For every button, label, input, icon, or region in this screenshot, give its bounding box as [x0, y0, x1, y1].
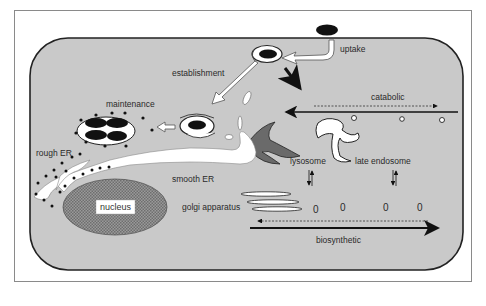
extracellular-particle [316, 25, 338, 36]
vesicle-marker: 0 [417, 202, 423, 213]
biosynthetic-label: biosynthetic [316, 235, 362, 245]
vesicle-marker: 0 [340, 202, 346, 213]
phagosome [252, 46, 282, 63]
catabolic-label: catabolic [371, 92, 405, 102]
golgi-apparatus-label: golgi apparatus [182, 202, 240, 212]
nucleus-label: nucleus [100, 202, 132, 212]
lysosome-label: lysosome [290, 156, 326, 166]
maintenance-label: maintenance [106, 99, 155, 109]
establishment-label: establishment [172, 68, 225, 78]
smooth-er-label: smooth ER [172, 174, 214, 184]
cell-diagram: uptake establishment maintenance catab [0, 0, 486, 306]
vesicle-marker: 0 [313, 204, 319, 215]
late-endosome-label: late endosome [355, 156, 411, 166]
vesicle-marker: 0 [383, 202, 389, 213]
rough-er-label: rough ER [36, 148, 72, 158]
uptake-label: uptake [340, 44, 366, 54]
